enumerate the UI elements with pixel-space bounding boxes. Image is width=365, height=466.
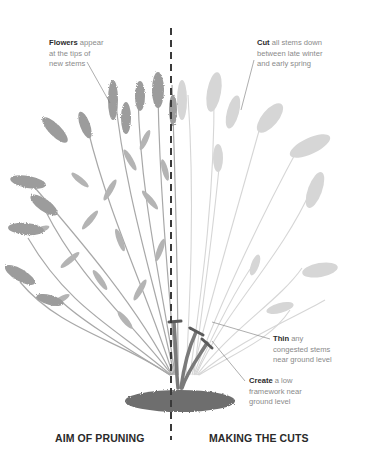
ghost-plant: [186, 90, 325, 375]
annotation-flowers-line3: new stems: [49, 59, 85, 68]
annotation-thin-bold: Thin: [273, 334, 289, 343]
annotation-create: Create a low framework near ground level: [249, 376, 302, 408]
annotation-cut: Cut all stems down between late winter a…: [257, 38, 322, 70]
annotation-thin-line1: any: [289, 334, 303, 343]
annotation-cut-line2: between late winter: [257, 49, 322, 58]
annotation-create-line2: framework near: [249, 387, 302, 396]
annotation-cut-line3: and early spring: [257, 59, 311, 68]
caption-aim-of-pruning: AIM OF PRUNING: [55, 432, 144, 444]
annotation-cut-bold: Cut: [257, 38, 270, 47]
illustration: [0, 0, 365, 466]
annotation-thin-line3: near ground level: [273, 355, 332, 364]
full-flower-spikes: [2, 72, 177, 308]
annotation-create-line1: a low: [273, 376, 293, 385]
caption-making-the-cuts: MAKING THE CUTS: [209, 432, 309, 444]
soil: [125, 390, 235, 412]
annotation-cut-line1: all stems down: [270, 38, 322, 47]
annotation-flowers-line1: appear: [78, 38, 104, 47]
annotation-flowers-bold: Flowers: [49, 38, 78, 47]
annotation-flowers-line2: at the tips of: [49, 49, 90, 58]
annotation-create-bold: Create: [249, 376, 273, 385]
annotation-create-line3: ground level: [249, 397, 290, 406]
annotation-thin: Thin any congested stems near ground lev…: [273, 334, 332, 366]
ghost-flower-spikes: [177, 71, 339, 316]
annotation-thin-line2: congested stems: [273, 345, 330, 354]
annotation-flowers: Flowers appear at the tips of new stems: [49, 38, 103, 70]
framework-stems: [174, 323, 207, 388]
